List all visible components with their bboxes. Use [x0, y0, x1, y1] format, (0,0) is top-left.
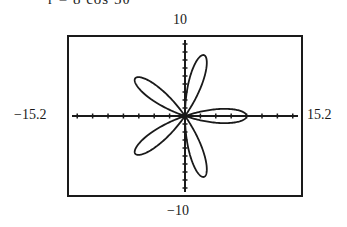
graph-window	[0, 0, 347, 227]
